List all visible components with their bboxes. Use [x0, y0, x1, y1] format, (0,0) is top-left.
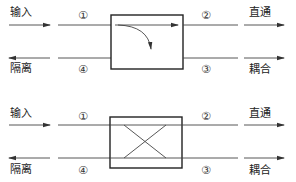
coupled-label: 耦合: [249, 62, 271, 76]
port-3-number: ③: [201, 164, 211, 177]
coupler-diagram-1: 输入 隔离 ① ④ ② ③ 直通 耦合: [9, 5, 284, 76]
port-4-number: ④: [78, 63, 88, 76]
coupled-label: 耦合: [249, 163, 271, 177]
input-label: 输入: [10, 106, 32, 120]
port-2-number: ②: [201, 110, 211, 123]
isolated-label: 隔离: [10, 162, 32, 176]
isolated-label: 隔离: [10, 61, 32, 75]
port-3-number: ③: [201, 63, 211, 76]
coupler-diagram-2: 输入 隔离 ① ④ ② ③ 直通 耦合: [9, 106, 284, 177]
port-4-number: ④: [78, 164, 88, 177]
coupler-diagram-canvas: 输入 隔离 ① ④ ② ③ 直通 耦合 输入 隔离 ①: [0, 0, 296, 182]
coupler-box: [111, 15, 183, 69]
through-label: 直通: [249, 106, 271, 120]
port-1-number: ①: [78, 9, 88, 22]
port-2-number: ②: [201, 9, 211, 22]
through-label: 直通: [249, 5, 271, 19]
port-1-number: ①: [78, 110, 88, 123]
input-label: 输入: [10, 5, 32, 19]
coupled-path-curved-arrow: [118, 25, 151, 49]
